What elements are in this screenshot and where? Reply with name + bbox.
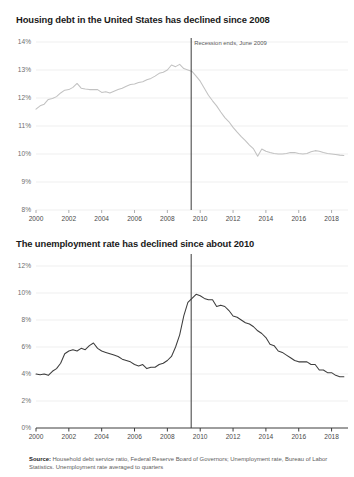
y-tick-label: 8% bbox=[21, 206, 31, 213]
chart-2-title: The unemployment rate has declined since… bbox=[16, 238, 254, 249]
y-tick-label: 9% bbox=[21, 178, 31, 185]
y-tick-label: 10% bbox=[18, 289, 31, 296]
x-tick-label: 2002 bbox=[62, 215, 77, 222]
y-tick-label: 4% bbox=[21, 370, 31, 377]
y-tick-label: 6% bbox=[21, 343, 31, 350]
y-tick-label: 11% bbox=[18, 122, 31, 129]
figure-container: Housing debt in the United States has de… bbox=[0, 0, 354, 477]
recession-annotation-label: Recession ends, June 2009 bbox=[194, 40, 267, 46]
chart-1-plot: 14%13%12%11%10%9%8%200020022004200620082… bbox=[0, 30, 354, 225]
y-tick-label: 2% bbox=[21, 397, 31, 404]
x-tick-label: 2012 bbox=[226, 433, 241, 440]
x-tick-label: 2018 bbox=[324, 215, 339, 222]
x-tick-label: 2002 bbox=[62, 433, 77, 440]
source-text: Household debt service ratio, Federal Re… bbox=[29, 456, 327, 470]
x-tick-label: 2006 bbox=[127, 433, 142, 440]
y-tick-label: 8% bbox=[21, 316, 31, 323]
y-tick-label: 0% bbox=[21, 424, 31, 431]
x-tick-label: 2008 bbox=[160, 433, 175, 440]
y-tick-label: 14% bbox=[18, 38, 31, 45]
y-tick-label: 10% bbox=[18, 150, 31, 157]
source-note: Source: Household debt service ratio, Fe… bbox=[29, 455, 343, 471]
source-label: Source: bbox=[29, 456, 51, 462]
chart-2-plot: 12%10%8%6%4%2%0%200020022004200620082010… bbox=[0, 254, 354, 449]
x-tick-label: 2008 bbox=[160, 215, 175, 222]
x-tick-label: 2010 bbox=[193, 433, 208, 440]
x-tick-label: 2000 bbox=[29, 433, 44, 440]
x-tick-label: 2004 bbox=[94, 433, 109, 440]
x-tick-label: 2010 bbox=[193, 215, 208, 222]
x-tick-label: 2018 bbox=[324, 433, 339, 440]
y-tick-label: 13% bbox=[18, 66, 31, 73]
y-tick-label: 12% bbox=[18, 262, 31, 269]
x-tick-label: 2006 bbox=[127, 215, 142, 222]
chart-1-title: Housing debt in the United States has de… bbox=[16, 14, 270, 25]
series-line bbox=[36, 294, 344, 376]
x-tick-label: 2014 bbox=[259, 215, 274, 222]
x-tick-label: 2014 bbox=[259, 433, 274, 440]
x-tick-label: 2016 bbox=[291, 433, 306, 440]
series-line bbox=[36, 64, 344, 156]
y-tick-label: 12% bbox=[18, 94, 31, 101]
x-tick-label: 2012 bbox=[226, 215, 241, 222]
x-tick-label: 2004 bbox=[94, 215, 109, 222]
x-tick-label: 2016 bbox=[291, 215, 306, 222]
x-tick-label: 2000 bbox=[29, 215, 44, 222]
